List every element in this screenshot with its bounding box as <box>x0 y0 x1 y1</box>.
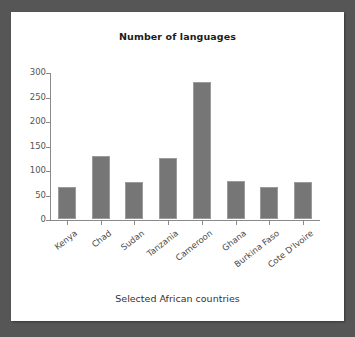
y-tick-label: 50 <box>35 190 46 201</box>
y-tick-label: 0 <box>41 214 46 225</box>
chart-title: Number of languages <box>11 31 344 42</box>
bar <box>159 158 177 219</box>
x-tick-mark <box>168 220 169 225</box>
bar <box>125 182 143 219</box>
x-axis-line <box>50 220 320 221</box>
x-category-label: Chad <box>89 228 112 249</box>
y-tick-mark <box>46 98 50 99</box>
x-category-label: Sudan <box>119 228 146 252</box>
y-tick-label: 300 <box>30 67 46 78</box>
x-tick-mark <box>202 220 203 225</box>
y-tick-mark <box>46 220 50 221</box>
y-tick-mark <box>46 171 50 172</box>
x-category-label: Cameroon <box>173 228 214 263</box>
y-tick: 300 <box>50 73 51 74</box>
x-tick-mark <box>269 220 270 225</box>
y-tick-label: 250 <box>30 92 46 103</box>
plot-area: 050100150200250300 <box>50 73 320 220</box>
x-tick-mark <box>134 220 135 225</box>
x-tick-mark <box>236 220 237 225</box>
x-tick-mark <box>303 220 304 225</box>
y-tick: 200 <box>50 122 51 123</box>
x-axis-title: Selected African countries <box>11 293 344 304</box>
y-tick: 150 <box>50 147 51 148</box>
bar <box>58 187 76 219</box>
bar <box>92 156 110 219</box>
y-tick-mark <box>46 122 50 123</box>
y-tick-mark <box>46 196 50 197</box>
bar <box>294 182 312 219</box>
y-tick: 50 <box>50 196 51 197</box>
x-tick-mark <box>67 220 68 225</box>
y-tick: 0 <box>50 220 51 221</box>
y-tick-mark <box>46 147 50 148</box>
y-tick: 250 <box>50 98 51 99</box>
bar <box>193 82 211 219</box>
bar <box>260 187 278 219</box>
y-tick-label: 200 <box>30 116 46 127</box>
y-tick-label: 150 <box>30 141 46 152</box>
chart-screenshot: Number of languages 050100150200250300 K… <box>0 0 355 337</box>
y-tick: 100 <box>50 171 51 172</box>
chart-panel: Number of languages 050100150200250300 K… <box>11 12 344 321</box>
y-tick-label: 100 <box>30 165 46 176</box>
x-category-label: Ghana <box>220 228 248 253</box>
y-tick-mark <box>46 73 50 74</box>
bar <box>227 181 245 219</box>
x-tick-mark <box>101 220 102 225</box>
x-category-label: Kenya <box>52 228 79 252</box>
